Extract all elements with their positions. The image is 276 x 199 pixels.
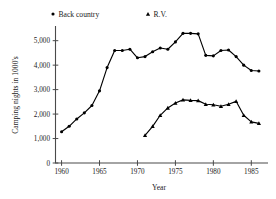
data-point [106,66,109,69]
series-back-country [60,32,260,133]
data-point [83,111,86,114]
axis-spines [56,26,269,163]
data-point [75,117,78,120]
series-r-v [143,98,261,137]
data-point [219,49,222,52]
x-tick-label: 1960 [54,168,69,176]
x-tick-label: 1965 [92,168,107,176]
x-axis-title: Year [152,183,166,192]
y-tick-label: 2,000 [34,111,51,119]
data-point [136,56,139,59]
legend-entry: R.V. [146,10,167,19]
y-tick-label: 3,000 [34,86,51,94]
circle-marker-icon [51,12,54,15]
y-tick-label: 1,000 [34,135,51,143]
data-point [257,69,260,72]
y-axis-title: Camping nights in 1000's [11,56,20,134]
data-point [212,54,215,57]
y-tick-label: 0 [46,160,50,168]
data-point [174,40,177,43]
x-tick-label: 1970 [130,168,145,176]
data-point [189,32,192,35]
chart-tick-labels: 01,0002,0003,0004,0005,00019601965197019… [34,37,259,176]
chart-figure: Back countryR.V. 01,0002,0003,0004,0005,… [0,0,276,199]
data-point [204,54,207,57]
x-tick-label: 1975 [168,168,183,176]
data-point [90,104,93,107]
legend-label: R.V. [154,10,167,19]
legend-entry: Back country [51,10,99,19]
y-tick-label: 4,000 [34,62,51,70]
data-point [197,32,200,35]
data-point [250,69,253,72]
camping-nights-line-chart: Back countryR.V. 01,0002,0003,0004,0005,… [0,0,276,199]
data-point [144,55,147,58]
data-point [181,32,184,35]
data-point [121,49,124,52]
data-point [113,49,116,52]
triangle-marker-icon [146,12,150,16]
x-tick-label: 1980 [206,168,221,176]
data-point [234,99,238,103]
data-point [227,48,230,51]
series-line [145,100,259,135]
x-tick-label: 1985 [244,168,259,176]
legend-label: Back country [59,10,100,19]
data-point [242,64,245,67]
data-point [128,48,131,51]
chart-ticks [53,41,252,166]
data-point [166,48,169,51]
data-point [151,50,154,53]
chart-axes [56,26,269,163]
data-point [68,125,71,128]
chart-series [60,32,261,137]
y-tick-label: 5,000 [34,37,51,45]
data-point [235,55,238,58]
chart-legend: Back countryR.V. [51,10,167,19]
data-point [98,89,101,92]
data-point [159,46,162,49]
data-point [60,130,63,133]
